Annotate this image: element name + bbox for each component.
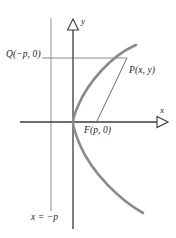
label-point-q: Q(−p, 0) bbox=[6, 50, 41, 60]
segment-focus-to-point bbox=[97, 58, 127, 121]
label-x-axis: x bbox=[160, 106, 164, 115]
label-y-axis: y bbox=[81, 17, 85, 26]
y-axis-arrowhead-icon bbox=[68, 19, 79, 30]
label-point-f: F(p, 0) bbox=[84, 126, 111, 136]
label-point-p: P(x, y) bbox=[129, 66, 155, 76]
figure-canvas bbox=[0, 0, 176, 238]
parabola-figure: Q(−p, 0) P(x, y) F(p, 0) x = −p x y bbox=[0, 0, 176, 238]
label-directrix: x = −p bbox=[31, 213, 58, 223]
x-axis-arrowhead-icon bbox=[157, 117, 168, 128]
